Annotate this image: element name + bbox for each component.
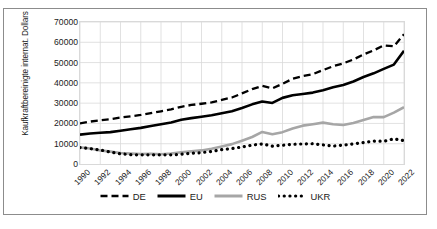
plot-area [79, 21, 405, 165]
y-tick-label: 70000 [54, 17, 78, 27]
y-tick-label: 30000 [54, 98, 78, 108]
chart-legend: DEEURUSUKR [4, 185, 426, 207]
y-tick-label: 0 [73, 159, 78, 169]
y-tick-label: 50000 [54, 58, 78, 68]
y-tick-label: 20000 [54, 118, 78, 128]
y-tick-label: 60000 [54, 37, 78, 47]
chart-frame: Kaufkraftbereinigte internat. Dollars 01… [3, 8, 427, 215]
y-tick-label: 40000 [54, 78, 78, 88]
legend-swatch-eu [157, 191, 186, 201]
legend-item-ukr[interactable]: UKR [278, 191, 331, 202]
legend-label: DE [133, 191, 146, 202]
y-tick-label: 10000 [54, 139, 78, 149]
legend-swatch-ukr [278, 191, 307, 201]
legend-label: UKR [311, 191, 331, 202]
legend-label: EU [190, 191, 203, 202]
legend-item-de[interactable]: DE [100, 191, 146, 202]
plot-canvas [79, 21, 405, 165]
legend-swatch-de [100, 191, 129, 201]
y-axis-ticks: 010000200003000040000500006000070000 [24, 21, 78, 165]
series-canvas [80, 22, 404, 164]
legend-item-eu[interactable]: EU [157, 191, 203, 202]
legend-label: RUS [247, 191, 267, 202]
chart-figure: Kaufkraftbereinigte internat. Dollars 01… [0, 0, 437, 229]
legend-item-rus[interactable]: RUS [214, 191, 267, 202]
legend-swatch-rus [214, 191, 243, 201]
